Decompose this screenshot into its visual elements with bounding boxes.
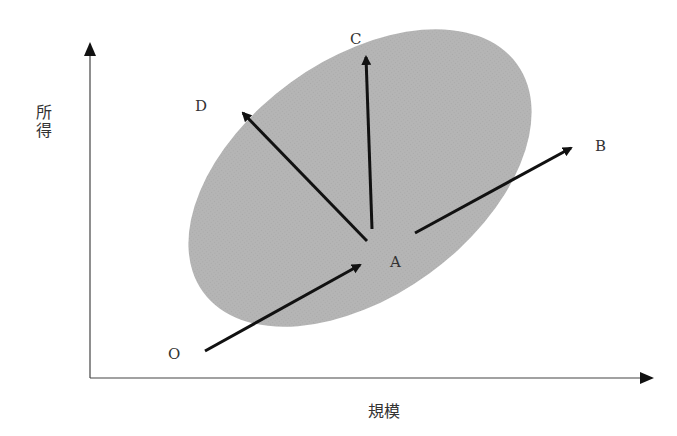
point-label-a: A: [390, 255, 401, 270]
point-label-d: D: [195, 99, 207, 114]
point-label-c: C: [350, 32, 361, 47]
x-axis-label: 規模: [368, 403, 400, 421]
y-axis-label: 所得: [33, 104, 51, 140]
point-label-b: B: [595, 139, 606, 154]
shaded-region: [134, 0, 587, 387]
point-label-o: O: [168, 347, 180, 362]
diagram-canvas: [0, 0, 677, 436]
